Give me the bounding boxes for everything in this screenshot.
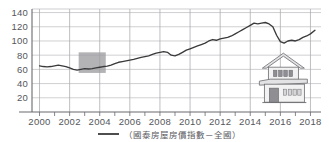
y-tick-label: 100 [12, 35, 28, 46]
house-door [269, 88, 278, 102]
house-upper-window [284, 70, 288, 77]
house-upper-wall [268, 67, 298, 80]
chart-figure: 14012010080604020 2000200220042006200820… [0, 0, 329, 142]
y-tick-label: 20 [17, 92, 28, 103]
house-lower-window [298, 89, 301, 95]
house-upper-window [279, 70, 283, 77]
x-tick-label: 2010 [179, 116, 201, 127]
x-tick-label: 2008 [149, 116, 171, 127]
house-lower-window [283, 89, 286, 95]
x-tick-label: 2016 [269, 116, 291, 127]
x-tick-label: 2012 [209, 116, 231, 127]
house-lower-window [288, 89, 291, 95]
y-axis-tick-labels: 14012010080604020 [12, 7, 28, 103]
y-tick-label: 80 [17, 50, 28, 61]
x-tick-label: 2006 [119, 116, 141, 127]
highlight-region [79, 52, 106, 73]
legend-label: （國泰房屋房價指數－全國） [124, 130, 241, 140]
y-tick-label: 40 [17, 78, 28, 89]
y-tick-label: 60 [17, 64, 28, 75]
house-upper-window [273, 70, 277, 77]
x-tick-label: 2000 [28, 116, 50, 127]
house-price-index-line-chart: 14012010080604020 2000200220042006200820… [0, 0, 329, 142]
x-axis-tick-labels: 2000200220042006200820102012201420162018 [28, 116, 321, 127]
x-tick-label: 2014 [239, 116, 261, 127]
x-tick-label: 2002 [58, 116, 80, 127]
y-tick-label: 140 [12, 7, 28, 18]
chart-legend: （國泰房屋房價指數－全國） [98, 130, 241, 140]
y-tick-label: 120 [12, 21, 28, 32]
house-lower-window [293, 89, 296, 95]
x-tick-label: 2004 [89, 116, 111, 127]
house-upper-window [289, 70, 293, 77]
x-tick-label: 2018 [299, 116, 321, 127]
